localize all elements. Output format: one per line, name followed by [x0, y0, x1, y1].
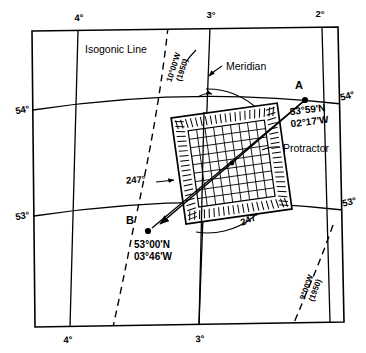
callout-protractor: Protractor	[283, 142, 330, 154]
position-longitude-b: 03°46'W	[134, 251, 173, 262]
latitude-label-left-0: 54°	[14, 103, 30, 116]
diagram-canvas: 4° 3° 2° 4° 3° 54° 53° 54° 53° Isogonic …	[0, 0, 366, 353]
callout-meridian: Meridian	[226, 60, 266, 72]
longitude-label-bottom-1: 3°	[195, 333, 205, 344]
position-latitude-b: 53°00'N	[134, 239, 170, 250]
longitude-label-bottom-0: 4°	[63, 334, 73, 345]
callout-isogonic-line: Isogonic Line	[85, 43, 147, 55]
meridian-2deg	[322, 28, 330, 322]
position-label-b: B	[126, 214, 134, 226]
longitude-label-top-2: 2°	[315, 8, 324, 19]
leader-meridian	[209, 66, 222, 76]
bearing-label-course: 247°	[126, 173, 147, 185]
leader-bearing-course	[156, 180, 174, 182]
meridian-4deg	[70, 31, 78, 327]
chart-diagram: 4° 3° 2° 4° 3° 54° 53° 54° 53° Isogonic …	[0, 0, 366, 353]
isogonic-label-upper-left: 10°00'W (1950)	[165, 51, 192, 86]
position-marker-b[interactable]	[145, 228, 151, 234]
longitude-label-top-0: 4°	[74, 12, 84, 23]
latitude-label-right-0: 54°	[339, 88, 356, 102]
latitude-label-right-1: 53°	[341, 194, 358, 208]
latitude-label-left-1: 53°	[14, 209, 30, 222]
position-label-a: A	[295, 79, 303, 91]
position-marker-a[interactable]	[302, 97, 308, 103]
longitude-label-top-1: 3°	[206, 9, 215, 20]
protractor-centre-point	[230, 161, 235, 166]
isogonic-label-lower-right: 9°00'W (1950)	[298, 273, 324, 304]
